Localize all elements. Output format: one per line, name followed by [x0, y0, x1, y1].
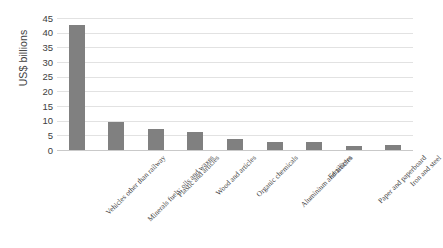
y-tick-label: 25: [28, 72, 53, 82]
bar[interactable]: [306, 142, 322, 150]
bar[interactable]: [148, 129, 164, 150]
y-tick-label: 15: [28, 102, 53, 112]
bar[interactable]: [346, 146, 362, 150]
y-tick-label: 40: [28, 28, 53, 38]
y-tick-label: 10: [28, 116, 53, 126]
y-axis-tick-labels: 454035302520151050: [28, 18, 53, 150]
bar[interactable]: [385, 145, 401, 150]
bars-layer: [57, 18, 413, 150]
y-tick-label: 45: [28, 14, 53, 24]
x-tick-label: Fertilizers: [327, 154, 354, 181]
bar[interactable]: [108, 122, 124, 150]
y-tick-label: 35: [28, 43, 53, 53]
y-tick-label: 30: [28, 58, 53, 68]
x-tick-label: Organic chemicals: [255, 154, 300, 199]
y-tick-label: 5: [28, 131, 53, 141]
y-tick-label: 20: [28, 87, 53, 97]
bar[interactable]: [227, 139, 243, 150]
gridline: [57, 150, 413, 151]
y-tick-label: 0: [28, 146, 53, 156]
bar[interactable]: [69, 25, 85, 150]
bar[interactable]: [187, 132, 203, 150]
x-tick-label: Wood and articles: [215, 154, 258, 197]
bar[interactable]: [267, 142, 283, 150]
